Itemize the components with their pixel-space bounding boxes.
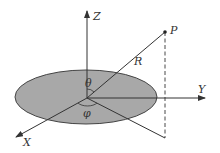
phi-label: φ: [83, 107, 91, 120]
x-axis-label: X: [22, 136, 32, 149]
y-axis-label: Y: [198, 83, 207, 96]
point-label: P: [169, 24, 178, 37]
point-p: [163, 30, 167, 34]
radius-label: R: [133, 55, 142, 68]
spherical-coordinate-diagram: Z Y X P R θ φ: [0, 0, 220, 153]
z-axis-label: Z: [92, 10, 101, 23]
theta-label: θ: [85, 77, 92, 90]
